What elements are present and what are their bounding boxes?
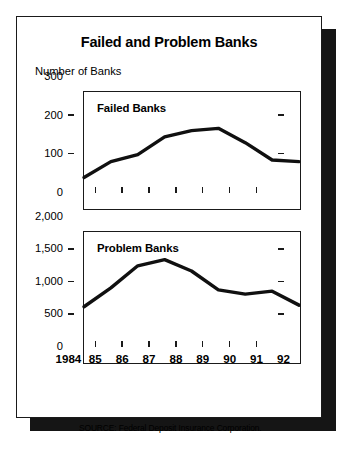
y-axis-tick-mark-right <box>278 313 284 314</box>
panel-title-problem-banks: Problem Banks <box>97 242 179 254</box>
y-axis-tick-mark-right <box>278 248 284 249</box>
x-axis-tick-mark-top-panel <box>202 187 203 193</box>
x-axis-tick-label: 92 <box>263 352 303 365</box>
y-axis-tick-label: 1,000 <box>19 276 63 287</box>
y-axis-tick-label: 2,000 <box>19 211 63 222</box>
x-axis-tick-mark-top-panel <box>175 187 176 193</box>
y-axis-tick-label: 500 <box>19 308 63 319</box>
figure-card: Failed and Problem Banks Number of Banks… <box>16 16 322 418</box>
y-axis-tick-mark <box>68 248 74 249</box>
x-axis-tick-mark <box>202 341 203 347</box>
y-axis-tick-label: 100 <box>19 148 63 159</box>
problem-banks-series-line <box>84 260 299 307</box>
y-axis-tick-label: 200 <box>19 110 63 121</box>
y-axis-tick-mark <box>68 153 74 154</box>
y-axis-tick-label: 300 <box>19 71 63 82</box>
y-axis-tick-mark <box>68 114 74 115</box>
x-axis-tick-mark <box>95 341 96 347</box>
x-axis-tick-mark <box>175 341 176 347</box>
x-axis-tick-mark-top-panel <box>229 187 230 193</box>
x-axis-tick-mark <box>256 341 257 347</box>
source-note: SOURCE: Federal Deposit Insurance Corpor… <box>79 423 262 433</box>
x-axis-tick-mark-top-panel <box>256 187 257 193</box>
x-axis-tick-mark <box>229 341 230 347</box>
failed-banks-series-line <box>84 128 299 177</box>
y-axis-tick-label: 1,500 <box>19 243 63 254</box>
page-title: Failed and Problem Banks <box>17 34 321 50</box>
x-axis-tick-mark-top-panel <box>148 187 149 193</box>
y-axis-tick-mark <box>68 313 74 314</box>
x-axis-tick-mark-top-panel <box>95 187 96 193</box>
y-axis-tick-label: 0 <box>19 341 63 352</box>
y-axis-tick-label: 0 <box>19 187 63 198</box>
y-axis-tick-mark <box>68 281 74 282</box>
x-axis-tick-mark <box>148 341 149 347</box>
panel-title-failed-banks: Failed Banks <box>97 102 166 114</box>
x-axis-tick-mark-top-panel <box>121 187 122 193</box>
x-axis-tick-mark <box>121 341 122 347</box>
y-axis-tick-mark-right <box>278 281 284 282</box>
y-axis-tick-mark-right <box>278 153 284 154</box>
figure-root: Failed and Problem Banks Number of Banks… <box>0 0 349 459</box>
y-axis-tick-mark-right <box>278 114 284 115</box>
